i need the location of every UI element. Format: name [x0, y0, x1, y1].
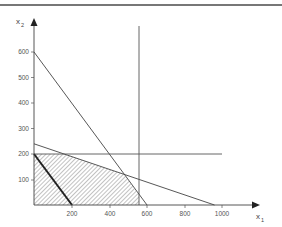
y-axis-label: x: [16, 17, 20, 26]
x-tick-label: 200: [67, 210, 78, 217]
y-tick-label: 200: [18, 150, 29, 157]
x-axis-label: x: [256, 212, 260, 221]
y-tick-label: 600: [18, 48, 29, 55]
x-tick-label: 400: [105, 210, 116, 217]
x-axis-label-subscript: 1: [261, 217, 264, 223]
y-axis-label-subscript: 2: [21, 22, 24, 28]
x-tick-label: 600: [142, 210, 153, 217]
y-tick-label: 300: [18, 125, 29, 132]
y-tick-label: 400: [18, 99, 29, 106]
y-tick-label: 100: [18, 176, 29, 183]
x-tick-label: 1000: [215, 210, 230, 217]
lp-chart: 200 400 600 800 1000 100 200 300 400 500…: [0, 0, 282, 227]
y-axis-arrow-icon: [31, 18, 38, 26]
y-tick-label: 500: [18, 74, 29, 81]
x-axis-arrow-icon: [252, 202, 260, 209]
x-tick-label: 800: [180, 210, 191, 217]
